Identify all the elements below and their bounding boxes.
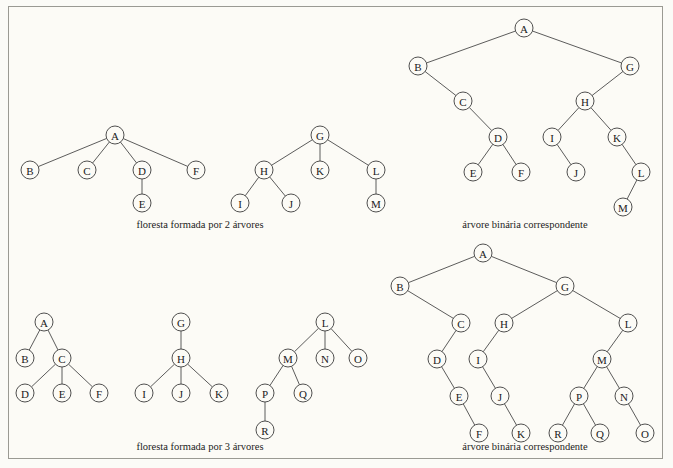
tree-node-j: J	[491, 387, 509, 405]
node-circle	[591, 424, 609, 442]
tree-edge	[573, 291, 620, 319]
tree-node-e: E	[450, 387, 468, 405]
node-circle	[469, 350, 487, 368]
node-circle	[593, 350, 611, 368]
binary-tree-bottom-diagram: ABGCHLDIMEJPNFKRQO	[0, 0, 673, 468]
tree-node-r: R	[549, 424, 567, 442]
tree-edge	[512, 291, 558, 319]
tree-edge	[491, 256, 556, 282]
tree-edge	[442, 367, 455, 389]
tree-edge	[562, 404, 574, 425]
node-circle	[615, 387, 633, 405]
tree-node-a: A	[474, 244, 492, 262]
figure-root: ABCDFEGHKLIJM ABGCHDIKEFJLM ABCDEFGHIJKL…	[0, 0, 673, 468]
tree-edge	[483, 330, 498, 351]
tree-edge	[628, 404, 640, 425]
node-circle	[570, 387, 588, 405]
tree-edge	[408, 291, 454, 319]
tree-node-c: C	[452, 314, 470, 332]
node-circle	[556, 277, 574, 295]
node-circle	[512, 424, 530, 442]
tree-edge	[408, 256, 474, 282]
tree-node-o: O	[636, 424, 654, 442]
caption-binary-tree-bottom: árvore binária correspondente	[390, 441, 660, 452]
node-circle	[636, 424, 654, 442]
node-circle	[549, 424, 567, 442]
tree-node-i: I	[469, 350, 487, 368]
tree-edge	[607, 330, 622, 351]
tree-node-n: N	[615, 387, 633, 405]
tree-edge	[584, 367, 598, 389]
caption-forest-three-trees: floresta formada por 3 árvores	[50, 441, 350, 452]
tree-node-k: K	[512, 424, 530, 442]
tree-node-l: L	[619, 314, 637, 332]
tree-node-h: H	[495, 314, 513, 332]
tree-node-m: M	[593, 350, 611, 368]
node-circle	[491, 387, 509, 405]
node-circle	[495, 314, 513, 332]
node-circle	[452, 314, 470, 332]
node-circle	[619, 314, 637, 332]
tree-edge	[607, 367, 620, 389]
tree-edge	[583, 404, 595, 425]
tree-edge	[504, 404, 516, 425]
node-circle	[450, 387, 468, 405]
tree-edge	[463, 404, 474, 425]
caption-forest-two-trees: floresta formada por 2 árvores	[60, 219, 340, 230]
node-circle	[474, 244, 492, 262]
caption-binary-tree-top: árvore binária correspondente	[390, 219, 660, 230]
node-circle	[470, 424, 488, 442]
tree-edge	[483, 367, 496, 389]
tree-node-q: Q	[591, 424, 609, 442]
tree-node-f: F	[470, 424, 488, 442]
tree-edge	[442, 330, 456, 351]
tree-node-b: B	[391, 277, 409, 295]
node-circle	[391, 277, 409, 295]
tree-node-p: P	[570, 387, 588, 405]
tree-node-d: D	[428, 350, 446, 368]
tree-node-g: G	[556, 277, 574, 295]
node-circle	[428, 350, 446, 368]
